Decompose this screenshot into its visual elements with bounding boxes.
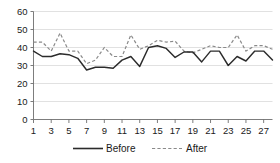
x-tick-label: 15	[152, 125, 163, 136]
x-tick-label: 5	[66, 125, 71, 136]
y-tick-label: 40	[17, 42, 28, 53]
x-tick-label: 7	[84, 125, 89, 136]
x-tick-label: 25	[241, 125, 252, 136]
y-tick-label: 10	[17, 96, 28, 107]
series-line-after	[34, 33, 273, 64]
x-tick-label: 1	[31, 125, 36, 136]
x-tick-label: 9	[102, 125, 107, 136]
y-tick-label: 0	[22, 114, 27, 125]
x-tick-label: 13	[134, 125, 145, 136]
x-tick-label: 19	[188, 125, 199, 136]
y-tick-label: 60	[17, 6, 28, 17]
x-tick-label: 17	[170, 125, 181, 136]
y-tick-label: 50	[17, 24, 28, 35]
y-tick-label: 30	[17, 60, 28, 71]
chart-canvas: 0102030405060 13579111315171921232527 Be…	[0, 0, 280, 163]
chart-legend: Before After	[73, 143, 208, 154]
legend-label-before: Before	[106, 143, 136, 154]
x-tick-label: 27	[258, 125, 269, 136]
y-tick-label: 20	[17, 78, 28, 89]
series-line-before	[34, 46, 273, 70]
x-axis-tick-labels: 13579111315171921232527	[31, 125, 269, 136]
x-tick-label: 3	[49, 125, 54, 136]
x-axis-tick-marks	[34, 120, 264, 124]
x-tick-label: 23	[223, 125, 234, 136]
y-axis-tick-labels: 0102030405060	[17, 6, 28, 125]
legend-label-after: After	[186, 143, 208, 154]
x-tick-label: 21	[205, 125, 216, 136]
line-chart: 0102030405060 13579111315171921232527 Be…	[0, 0, 280, 163]
x-tick-label: 11	[117, 125, 127, 136]
